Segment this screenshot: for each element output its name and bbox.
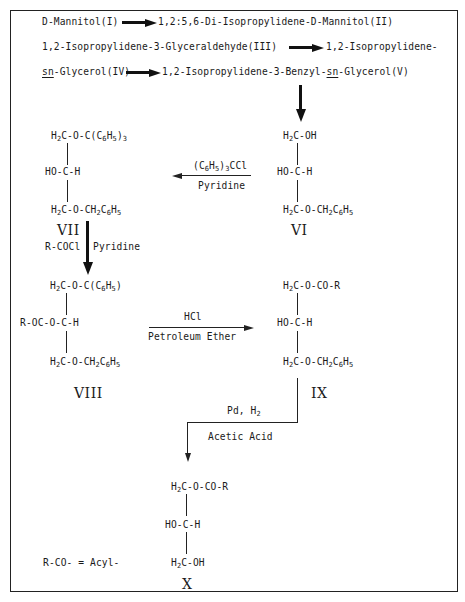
sn-prefix: sn: [327, 66, 339, 77]
compound-IV-suffix: -Glycerol(IV): [54, 66, 130, 77]
VIII-bond-1: [66, 293, 67, 315]
reagent-petroleum-ether: Petroleum Ether: [148, 331, 236, 343]
arrowhead-left-icon: [172, 173, 182, 179]
VIII-top-group: H2C-O-C(C6H5): [50, 280, 122, 292]
VIII-bottom-group: H2C-O-CH2C6H5: [50, 356, 120, 368]
compound-IV-name-part1: 1,2-Isopropylidene-: [326, 41, 438, 53]
VII-middle-group: HO-C-H: [45, 166, 80, 178]
compound-III-name: 1,2-Isopropylidene-3-Glyceraldehyde(III): [42, 41, 277, 53]
VIII-bond-2: [66, 331, 67, 353]
arrow-I-to-II: [122, 21, 147, 24]
VI-middle-group: HO-C-H: [277, 166, 312, 178]
arrow-III-to-IV: [289, 46, 314, 49]
reagent-pyridine-2: Pyridine: [93, 241, 140, 253]
reagent-Pd-H2: Pd, H2: [227, 405, 261, 417]
compound-label-VII: VII: [57, 222, 80, 238]
reagent-acyl-chloride: R-COCl: [45, 241, 80, 253]
X-bond-2: [186, 532, 187, 554]
VII-top-group: H2C-O-C(C6H5)3: [51, 130, 127, 142]
IX-bottom-group: H2C-O-CH2C6H5: [283, 356, 353, 368]
VII-bond-1: [67, 143, 68, 165]
arrowhead-right-icon: [312, 44, 324, 52]
compound-V-suffix: -Glycerol(V): [338, 66, 409, 77]
IX-bond-1: [297, 293, 298, 315]
compound-V-name: 1,2-Isopropylidene-3-Benzyl-sn-Glycerol(…: [162, 66, 409, 78]
reagent-pyridine: Pyridine: [198, 180, 245, 192]
arrow-IX-to-X-drop: [187, 422, 188, 454]
arrow-IX-to-X-horizontal: [187, 422, 298, 423]
IX-middle-group: HO-C-H: [277, 317, 312, 329]
VII-bond-2: [67, 180, 68, 202]
VI-bond-1: [297, 143, 298, 165]
arrow-VIII-to-IX: [149, 327, 245, 328]
IX-bond-2: [297, 331, 298, 353]
VI-bond-2: [297, 180, 298, 202]
X-bond-1: [186, 494, 187, 516]
reagent-HCl: HCl: [184, 311, 202, 323]
VI-top-group: H2C-OH: [283, 130, 317, 142]
X-middle-group: HO-C-H: [165, 519, 200, 531]
X-top-group: H2C-O-CO-R: [171, 481, 228, 493]
X-bottom-group: H2C-OH: [171, 557, 205, 569]
compound-label-IX: IX: [311, 385, 328, 401]
reagent-acetic-acid: Acetic Acid: [208, 431, 273, 443]
VIII-middle-group: R-OC-O-C-H: [20, 317, 79, 329]
reagent-trityl-chloride: (C6H5)3CCl: [193, 160, 247, 172]
compound-IV-name-part2: sn-Glycerol(IV): [42, 66, 130, 78]
arrow-VI-to-VII: [180, 175, 251, 176]
arrow-IX-to-X-vertical: [297, 378, 298, 423]
compound-label-X: X: [182, 576, 192, 592]
arrowhead-down-icon: [185, 453, 191, 462]
arrow-VII-to-VIII: [86, 221, 89, 265]
VII-bottom-group: H2C-O-CH2C6H5: [51, 204, 121, 216]
acyl-legend: R-CO- = Acyl-: [43, 557, 119, 569]
arrowhead-right-icon: [145, 19, 157, 27]
compound-I-name: D-Mannitol(I): [42, 16, 118, 28]
compound-II-name: 1,2:5,6-Di-Isopropylidene-D-Mannitol(II): [158, 16, 393, 28]
arrowhead-right-icon: [149, 69, 161, 77]
compound-label-VI: VI: [291, 222, 308, 238]
compound-V-prefix: 1,2-Isopropylidene-3-Benzyl-: [162, 66, 327, 77]
compound-label-VIII: VIII: [74, 385, 103, 401]
arrow-V-to-VI: [299, 85, 302, 111]
arrowhead-down-icon: [296, 109, 306, 122]
VI-bottom-group: H2C-O-CH2C6H5: [283, 204, 353, 216]
arrowhead-down-icon: [83, 262, 93, 275]
diagram-frame: [10, 10, 458, 592]
IX-top-group: H2C-O-CO-R: [283, 280, 340, 292]
arrowhead-right-icon: [244, 325, 254, 331]
arrow-IV-to-V: [126, 71, 151, 74]
sn-prefix: sn: [42, 66, 54, 77]
